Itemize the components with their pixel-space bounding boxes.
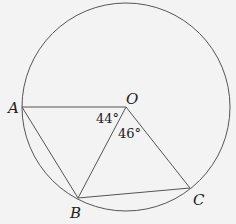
angle-BOC-label: 46° xyxy=(118,126,141,141)
label-A: A xyxy=(6,99,19,117)
label-B: B xyxy=(69,204,81,222)
label-C: C xyxy=(193,191,205,209)
label-O: O xyxy=(126,90,138,108)
circle-diagram: A O B C 44° 46° xyxy=(0,0,236,224)
angle-AOB-label: 44° xyxy=(96,111,119,126)
